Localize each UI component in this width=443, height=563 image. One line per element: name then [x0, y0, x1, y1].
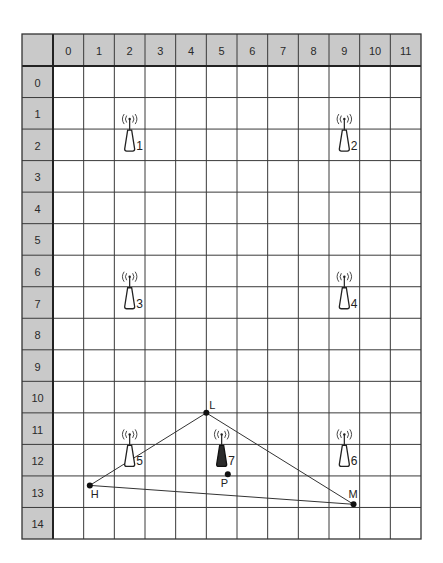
tower-label: 2 [351, 139, 358, 153]
column-header-label: 0 [65, 45, 71, 57]
column-header-label: 1 [96, 45, 102, 57]
tower-label: 4 [351, 297, 358, 311]
row-header-label: 6 [34, 266, 40, 278]
column-header-label: 10 [369, 45, 381, 57]
row-header-label: 9 [34, 361, 40, 373]
point-label: H [91, 488, 99, 500]
row-header-label: 3 [34, 171, 40, 183]
column-header-label: 3 [157, 45, 163, 57]
row-header-label: 12 [31, 455, 43, 467]
point-marker [351, 501, 357, 507]
column-header-label: 2 [127, 45, 133, 57]
column-header-label: 7 [280, 45, 286, 57]
column-header-label: 9 [341, 45, 347, 57]
column-header-label: 11 [400, 45, 411, 57]
point-label: M [349, 488, 358, 500]
column-header-label: 6 [249, 45, 255, 57]
column-header-label: 4 [188, 45, 194, 57]
row-header-label: 7 [34, 298, 40, 310]
row-header-label: 14 [31, 518, 43, 530]
point-label: L [209, 399, 215, 411]
grid-diagram: 0123456789101101234567891011121314 12345… [0, 0, 443, 563]
row-header-label: 11 [32, 424, 43, 436]
row-header-label: 2 [34, 140, 40, 152]
row-header-label: 10 [31, 392, 43, 404]
column-header-label: 8 [311, 45, 317, 57]
tower-label: 1 [136, 139, 143, 153]
row-header-label: 8 [34, 329, 40, 341]
tower-label: 3 [136, 297, 143, 311]
column-header-label: 5 [219, 45, 225, 57]
tower-label: 7 [228, 454, 235, 468]
row-header-label: 5 [34, 234, 40, 246]
row-header-label: 1 [34, 108, 40, 120]
row-header-label: 4 [34, 203, 40, 215]
point-label: P [221, 477, 228, 489]
row-header-label: 13 [31, 487, 43, 499]
row-header-label: 0 [34, 77, 40, 89]
tower-label: 6 [351, 454, 358, 468]
tower-label: 5 [136, 454, 143, 468]
